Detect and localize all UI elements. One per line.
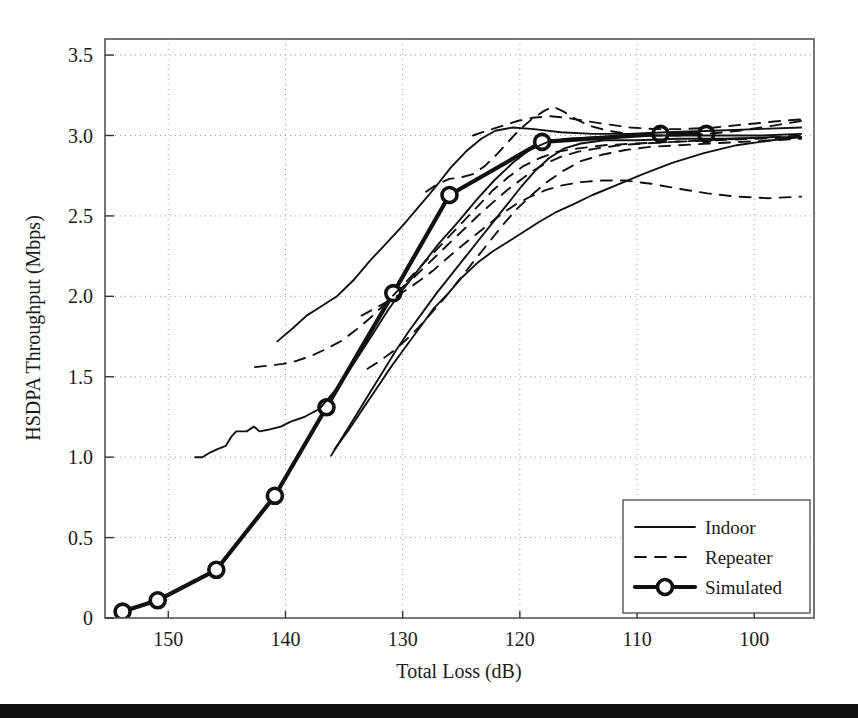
legend-label-indoor: Indoor	[705, 517, 756, 538]
series-line-indoor-1	[195, 134, 801, 457]
y-tick-label: 3.0	[68, 125, 93, 147]
y-tick-label: 3.5	[68, 44, 93, 66]
data-point-marker	[386, 286, 401, 301]
data-point-marker	[209, 562, 224, 577]
legend-label-repeater: Repeater	[705, 547, 773, 568]
y-tick-label: 0	[83, 607, 93, 629]
hsdpa-throughput-chart: 150140130120110100 00.51.01.52.02.53.03.…	[0, 0, 858, 704]
series-line-repeater-2	[426, 107, 801, 192]
data-point-marker	[442, 188, 457, 203]
x-tick-label: 110	[622, 628, 651, 650]
data-point-marker	[150, 593, 165, 608]
y-tick-label: 0.5	[68, 527, 93, 549]
page-bottom-edge	[0, 704, 858, 718]
x-tick-label: 100	[739, 628, 769, 650]
series-line-repeater-1	[255, 137, 801, 367]
series-line-simulated	[123, 134, 707, 612]
series-line-repeater-5	[368, 139, 802, 369]
chart-legend: IndoorRepeaterSimulated	[623, 500, 810, 613]
series-line-indoor-2	[277, 128, 801, 342]
y-tick-label: 2.0	[68, 285, 93, 307]
x-tick-label: 150	[153, 628, 183, 650]
x-tick-label: 120	[505, 628, 535, 650]
x-axis-label: Total Loss (dB)	[396, 660, 521, 683]
x-axis-ticks: 150140130120110100	[153, 611, 769, 650]
x-tick-label: 140	[270, 628, 300, 650]
data-point-marker	[115, 604, 130, 619]
y-tick-label: 1.5	[68, 366, 93, 388]
x-tick-label: 130	[388, 628, 418, 650]
legend-marker-simulated	[658, 580, 673, 595]
y-axis-ticks: 00.51.01.52.02.53.03.5	[68, 44, 114, 629]
figure-container: 150140130120110100 00.51.01.52.02.53.03.…	[0, 0, 858, 718]
data-point-marker	[267, 488, 282, 503]
y-axis-label: HSDPA Throughput (Mbps)	[22, 215, 45, 441]
y-tick-label: 1.0	[68, 446, 93, 468]
legend-label-simulated: Simulated	[705, 577, 783, 598]
y-tick-label: 2.5	[68, 205, 93, 227]
